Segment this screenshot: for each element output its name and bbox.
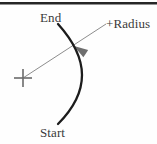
arc-center-crosshair — [14, 69, 32, 87]
arc-radius-diagram: End Start +Radius — [0, 0, 157, 144]
label-end: End — [40, 11, 61, 24]
label-radius: +Radius — [106, 17, 150, 30]
label-start: Start — [40, 126, 65, 139]
arc-path — [58, 24, 82, 124]
